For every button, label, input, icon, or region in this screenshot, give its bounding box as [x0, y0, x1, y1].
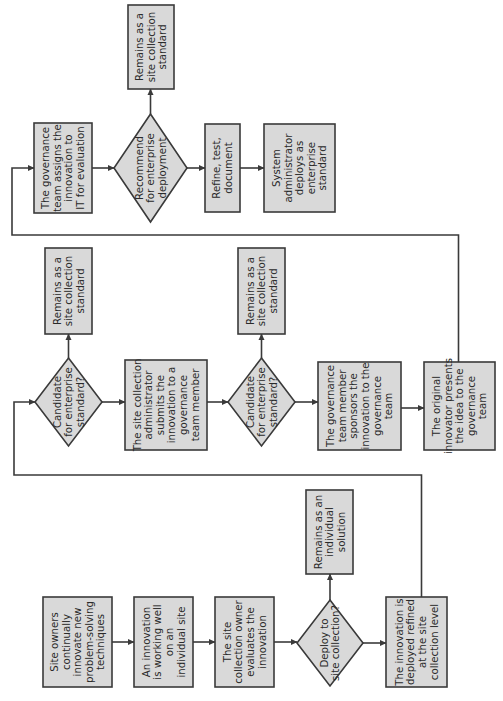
- node-label-line: standard: [75, 268, 86, 313]
- node-label: Candidatefor enterprisestandard?: [245, 367, 279, 436]
- process-node: The sitecollection ownerevaluates theinn…: [215, 597, 274, 687]
- node-label-line: Remains as a: [245, 257, 256, 325]
- node-label: The site collectionadministratorsubmits …: [132, 359, 201, 453]
- process-node: The site collectionadministratorsubmits …: [125, 359, 207, 453]
- node-label-line: System: [271, 149, 282, 187]
- node-label-line: the idea to the: [454, 368, 465, 443]
- decision-node: Deploy tosite collection?: [297, 600, 363, 686]
- node-label-line: individual site: [176, 606, 187, 677]
- node-label-line: innovation to the: [360, 362, 371, 449]
- node-label-line: site collection: [63, 256, 74, 327]
- node-label-line: The site collection: [132, 359, 143, 453]
- node-label-line: problem-solving: [84, 601, 95, 683]
- node-label-line: submits the: [155, 375, 166, 435]
- node-label-line: collection owner: [233, 599, 244, 683]
- node-label: Recommendfor enterprisedeployment: [134, 133, 168, 202]
- node-label-line: The governance: [40, 127, 51, 210]
- node-label-line: Recommend: [134, 136, 145, 200]
- node-label-line: innovation: [257, 615, 268, 669]
- node-label-line: team assigns the: [52, 124, 63, 212]
- node-label-line: Remains as an: [313, 495, 324, 569]
- node-label-line: Deploy to: [319, 618, 330, 667]
- node-label-line: team: [477, 393, 488, 420]
- node-label-line: Candidate: [245, 376, 256, 428]
- process-node: The governanceteam membersponsors theinn…: [318, 362, 401, 450]
- process-node: Systemadministratordeploys asenterprises…: [264, 124, 335, 212]
- node-label-line: team member: [337, 369, 348, 443]
- process-node: Remains as asite collectionstandard: [238, 248, 285, 334]
- node-label-line: evaluates the: [245, 607, 256, 677]
- node-label-line: The original: [431, 376, 442, 437]
- node-label: The governanceteam assigns theinnovation…: [40, 124, 86, 212]
- node-label: Candidatefor enterprisestandard?: [52, 367, 86, 436]
- process-node: Remains as anindividualsolution: [306, 490, 353, 574]
- node-label-line: for enterprise: [63, 367, 74, 436]
- node-label-line: for enterprise: [256, 367, 267, 436]
- node-label-line: The innovation is: [394, 598, 405, 686]
- node-label-line: techniques: [95, 614, 106, 670]
- process-node: Refine, test,document: [205, 124, 240, 212]
- node-label-line: sponsors the: [348, 373, 359, 438]
- node-label-line: deploys as: [294, 141, 305, 195]
- node-label-line: standard: [317, 145, 328, 190]
- node-label-line: collection level: [429, 604, 440, 680]
- node-label-line: The governance: [325, 365, 336, 448]
- node-label-line: An innovation: [141, 607, 152, 677]
- decision-node: Candidatefor enterprisestandard?: [228, 358, 295, 446]
- node-label-line: deployment: [157, 138, 168, 199]
- node-label: Refine, test,document: [211, 137, 234, 198]
- node-label-line: innovator presents: [443, 358, 454, 454]
- node-label-line: administrator: [283, 133, 294, 203]
- node-label-line: The site: [222, 622, 233, 664]
- node-label-line: team member: [190, 368, 201, 442]
- node-label-line: standard?: [75, 377, 86, 428]
- node-label-line: innovate new: [72, 608, 83, 677]
- flowchart-canvas: Site ownerscontinuallyinnovate newproble…: [0, 0, 503, 701]
- process-node: Remains as asite collectionstandard: [128, 5, 174, 89]
- node-label-line: IT for evaluation: [75, 126, 86, 209]
- node-label-line: enterprise: [306, 142, 317, 194]
- node-label-line: Site owners: [49, 612, 60, 672]
- process-node: The originalinnovator presentsthe idea t…: [424, 358, 495, 454]
- node-label-line: site collection: [256, 256, 267, 327]
- node-label-line: site collection: [146, 12, 157, 83]
- node-label-line: governance: [372, 376, 383, 436]
- node-label-line: is working well: [152, 604, 163, 679]
- process-node: Site ownerscontinuallyinnovate newproble…: [43, 597, 112, 687]
- node-label-line: innovation to: [63, 134, 74, 201]
- decision-node: Recommendfor enterprisedeployment: [114, 114, 187, 222]
- node-label-line: standard: [268, 268, 279, 313]
- nodes-layer: Site ownerscontinuallyinnovate newproble…: [34, 5, 495, 687]
- node-label-line: Candidate: [52, 376, 63, 428]
- node-label-line: team: [383, 393, 394, 420]
- node-label-line: Remains as a: [134, 13, 145, 81]
- node-label-line: administrator: [143, 370, 154, 440]
- node-label-line: individual: [324, 507, 335, 556]
- node-label-line: standard?: [268, 377, 279, 428]
- flowchart-diagram: Site ownerscontinuallyinnovate newproble…: [0, 0, 503, 701]
- node-label-line: innovation to a: [166, 367, 177, 444]
- decision-node: Candidatefor enterprisestandard?: [35, 358, 102, 446]
- node-label-line: document: [223, 142, 234, 193]
- node-label-line: governance: [466, 376, 477, 436]
- process-node: An innovationis working wellon anindivid…: [134, 597, 193, 687]
- node-label-line: deployed refined: [405, 599, 416, 685]
- node-label-line: governance: [178, 375, 189, 435]
- process-node: The governanceteam assigns theinnovation…: [34, 123, 92, 213]
- node-label-line: standard: [157, 24, 168, 69]
- node-label-line: solution: [336, 512, 347, 552]
- process-node: The innovation isdeployed refinedat the …: [386, 597, 447, 687]
- node-label-line: on an: [164, 628, 175, 657]
- node-label-line: Refine, test,: [211, 137, 222, 198]
- node-label-line: continually: [61, 614, 72, 670]
- node-label-line: at the site: [417, 616, 428, 668]
- node-label-line: Remains as a: [52, 257, 63, 325]
- node-label-line: for enterprise: [145, 133, 156, 202]
- node-label-line: site collection?: [330, 605, 341, 681]
- process-node: Remains as asite collectionstandard: [45, 248, 92, 334]
